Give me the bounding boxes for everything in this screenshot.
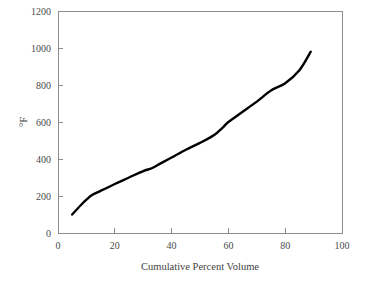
x-tick-label: 40	[167, 240, 177, 251]
y-tick-label: 400	[36, 154, 51, 165]
y-tick-label: 200	[36, 191, 51, 202]
x-tick-label: 100	[335, 240, 350, 251]
y-tick-label: 1000	[31, 43, 51, 54]
y-tick-label: 1200	[31, 6, 51, 17]
x-axis-title: Cumulative Percent Volume	[141, 261, 259, 272]
y-tick-label: 800	[36, 80, 51, 91]
y-axis-title: °F	[18, 117, 29, 127]
y-tick-label: 0	[46, 228, 51, 239]
x-tick-label: 80	[280, 240, 290, 251]
x-tick-label: 60	[223, 240, 233, 251]
chart-container: 020040060080010001200 020406080100 Cumul…	[0, 0, 372, 282]
distillation-curve-chart: 020040060080010001200 020406080100 Cumul…	[0, 0, 372, 282]
x-tick-label: 0	[56, 240, 61, 251]
x-tick-label: 20	[110, 240, 120, 251]
y-tick-label: 600	[36, 117, 51, 128]
